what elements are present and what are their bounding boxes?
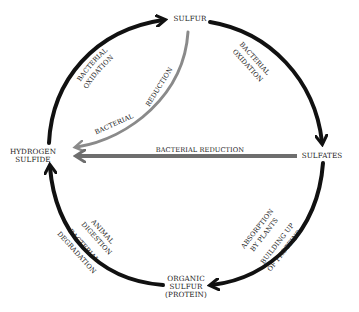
label-h2s-to-sulfur: BACTERIAL OXIDATION bbox=[76, 46, 116, 90]
arrow-sulfur-to-sulfates bbox=[210, 22, 322, 142]
node-sulfur: SULFUR bbox=[174, 14, 207, 23]
sulfur-cycle-diagram: SULFUR SULFATES HYDROGEN SULFIDE ORGANIC… bbox=[0, 0, 359, 312]
svg-text:BACTERIAL: BACTERIAL bbox=[94, 112, 136, 136]
arrow-organic-to-h2s bbox=[50, 167, 163, 285]
node-sulfates: SULFATES bbox=[302, 151, 343, 160]
svg-text:(PROTEIN): (PROTEIN) bbox=[165, 290, 207, 299]
label-sulfates-to-h2s-reduction: BACTERIAL REDUCTION bbox=[156, 146, 245, 154]
label-sulfur-to-h2s-reduction: BACTERIAL REDUCTION bbox=[94, 66, 175, 137]
svg-text:SULFIDE: SULFIDE bbox=[15, 155, 50, 164]
node-hydrogen-sulfide: HYDROGEN SULFIDE bbox=[10, 147, 56, 164]
node-organic-sulfur: ORGANIC SULFUR (PROTEIN) bbox=[165, 274, 207, 299]
label-sulfates-to-organic: ABSORPTION BY PLANTS BUILDING UP OF PROT… bbox=[239, 207, 303, 273]
